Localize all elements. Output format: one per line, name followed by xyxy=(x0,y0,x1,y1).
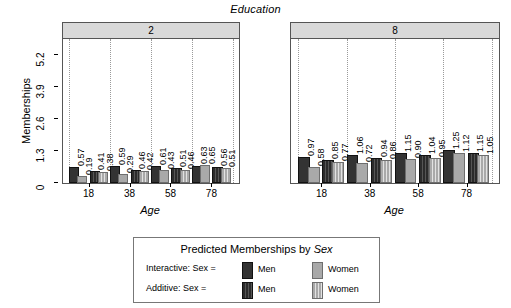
y-tick-mark xyxy=(54,86,58,87)
chart-legend: Predicted Memberships by Sex Interactive… xyxy=(133,237,380,303)
panel-strip-label: 8 xyxy=(291,23,499,39)
legend-row-label: Interactive: Sex = xyxy=(146,263,216,273)
x-axis-panel-1: 18385878Age xyxy=(290,183,498,223)
x-tick-mark xyxy=(321,183,322,187)
x-tick-label: 18 xyxy=(74,188,104,199)
y-tick-mark xyxy=(54,54,58,55)
panel-education-2: 2 0.570.190.410.380.590.290.460.420.610.… xyxy=(62,22,240,184)
legend-swatch-men xyxy=(242,282,253,299)
bar-women xyxy=(98,172,108,183)
x-tick-label: 58 xyxy=(155,188,185,199)
y-tick-label: 0 xyxy=(28,177,54,187)
panel-education-8: 8 0.970.580.850.771.060.720.940.861.150.… xyxy=(290,22,500,184)
bar-women xyxy=(332,162,344,183)
y-tick-mark xyxy=(54,150,58,151)
plot-area: 0.570.190.410.380.590.290.460.420.610.43… xyxy=(63,39,239,183)
bar-women xyxy=(139,171,149,183)
bar-women xyxy=(118,174,128,183)
x-tick-mark xyxy=(370,183,371,187)
legend-key-label: Men xyxy=(258,264,276,274)
legend-row-interactive: Interactive: Sex =MenWomen xyxy=(134,261,379,279)
legend-title-emphasis: Sex xyxy=(314,243,333,255)
y-tick-label: 3.9 xyxy=(28,81,54,91)
legend-swatch-women xyxy=(312,262,323,279)
x-tick-label: 38 xyxy=(115,188,145,199)
y-tick-mark xyxy=(54,182,58,183)
x-tick-mark xyxy=(130,183,131,187)
x-tick-label: 38 xyxy=(355,188,385,199)
bar-value-label: 0.51 xyxy=(227,150,237,168)
legend-key-label: Women xyxy=(328,284,359,294)
bar-value-label: 1.15 xyxy=(403,134,413,152)
x-tick-label: 78 xyxy=(452,188,482,199)
legend-key-label: Women xyxy=(328,264,359,274)
bar-women xyxy=(380,160,392,183)
bar-women xyxy=(477,155,489,183)
bar-value-label: 0.97 xyxy=(306,139,316,157)
y-tick-label: 5.2 xyxy=(28,49,54,59)
bar-value-label: 0.43 xyxy=(166,152,176,170)
bar-women xyxy=(308,167,320,183)
bar-women xyxy=(180,170,190,183)
chart-figure: Education Memberships 01.32.63.95.2 2 0.… xyxy=(0,0,511,308)
y-tick-label: 1.3 xyxy=(28,145,54,155)
bar-women xyxy=(159,170,169,183)
y-axis-ticks: 01.32.63.95.2 xyxy=(28,22,58,182)
x-axis-panel-0: 18385878Age xyxy=(62,183,238,223)
legend-key-label: Men xyxy=(258,284,276,294)
x-tick-mark xyxy=(467,183,468,187)
x-tick-label: 58 xyxy=(403,188,433,199)
legend-row-label: Additive: Sex = xyxy=(146,283,206,293)
bar-value-label: 1.25 xyxy=(451,132,461,150)
y-tick-label: 2.6 xyxy=(28,113,54,123)
bar-value-label: 1.05 xyxy=(485,137,495,155)
gridline xyxy=(69,39,70,183)
y-tick-mark xyxy=(54,118,58,119)
chart-title: Education xyxy=(0,3,511,15)
legend-swatch-men xyxy=(242,262,253,279)
bar-value-label: 1.04 xyxy=(427,137,437,155)
x-tick-label: 78 xyxy=(196,188,226,199)
legend-row-additive: Additive: Sex =MenWomen xyxy=(134,281,379,299)
bar-women xyxy=(221,168,231,183)
x-tick-mark xyxy=(418,183,419,187)
legend-swatch-women xyxy=(312,282,323,299)
panel-strip-label: 2 xyxy=(63,23,239,39)
bar-women xyxy=(77,176,87,183)
bar-women xyxy=(356,163,368,183)
x-axis-label: Age xyxy=(90,204,210,216)
legend-title: Predicted Memberships by Sex xyxy=(134,243,379,255)
x-tick-mark xyxy=(170,183,171,187)
x-tick-label: 18 xyxy=(306,188,336,199)
x-tick-mark xyxy=(89,183,90,187)
x-axis-label: Age xyxy=(334,204,454,216)
bar-women xyxy=(200,165,210,183)
bar-value-label: 0.85 xyxy=(330,142,340,160)
bar-value-label: 0.65 xyxy=(207,146,217,164)
gridline xyxy=(492,39,493,183)
plot-area: 0.970.580.850.771.060.720.940.861.150.90… xyxy=(291,39,499,183)
bar-value-label: 1.15 xyxy=(475,134,485,152)
bar-value-label: 1.12 xyxy=(461,135,471,153)
bar-women xyxy=(453,153,465,183)
bar-women xyxy=(429,158,441,183)
bar-women xyxy=(405,159,417,183)
x-tick-mark xyxy=(211,183,212,187)
